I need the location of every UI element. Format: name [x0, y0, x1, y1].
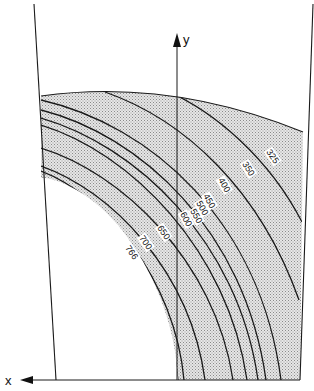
y-axis-arrow-icon	[173, 33, 181, 47]
isotherm-diagram: y x 325 350 400 450 500 550	[0, 0, 314, 391]
left-boundary	[34, 4, 56, 380]
x-axis-label: x	[5, 373, 12, 388]
y-axis-label: y	[183, 32, 190, 47]
x-axis-arrow-icon	[20, 376, 33, 384]
